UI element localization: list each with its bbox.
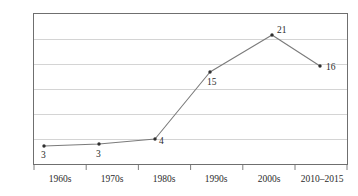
chart-canvas: 3 3 4 15 21 16 1960s 1970s 1980s 1990s 2… xyxy=(0,0,358,196)
data-point-marker xyxy=(153,137,156,140)
series-line xyxy=(44,35,320,146)
x-axis-tick-label: 1980s xyxy=(153,174,176,184)
x-axis-tick-label: 1960s xyxy=(49,174,72,184)
x-axis xyxy=(34,165,347,171)
x-axis-tick-label: 2010–2015 xyxy=(301,174,344,184)
data-point-marker xyxy=(97,142,100,145)
data-value-label: 15 xyxy=(207,77,217,87)
data-point-marker xyxy=(42,144,45,147)
data-value-label: 21 xyxy=(277,25,287,35)
data-markers xyxy=(42,33,321,147)
x-axis-tick-labels: 1960s 1970s 1980s 1990s 2000s 2010–2015 xyxy=(49,174,344,184)
data-value-label: 3 xyxy=(41,150,46,160)
x-axis-tick-label: 1970s xyxy=(101,174,124,184)
data-value-label: 3 xyxy=(96,149,101,159)
data-point-marker xyxy=(270,33,273,36)
data-value-label: 16 xyxy=(326,62,336,72)
line-chart: 3 3 4 15 21 16 1960s 1970s 1980s 1990s 2… xyxy=(0,0,358,196)
data-point-marker xyxy=(318,64,321,67)
gridlines xyxy=(34,40,347,140)
plot-area-border xyxy=(34,14,348,165)
data-point-marker xyxy=(208,70,211,73)
x-axis-tick-label: 2000s xyxy=(258,174,281,184)
data-value-label: 4 xyxy=(159,136,164,146)
x-axis-tick-label: 1990s xyxy=(205,174,228,184)
